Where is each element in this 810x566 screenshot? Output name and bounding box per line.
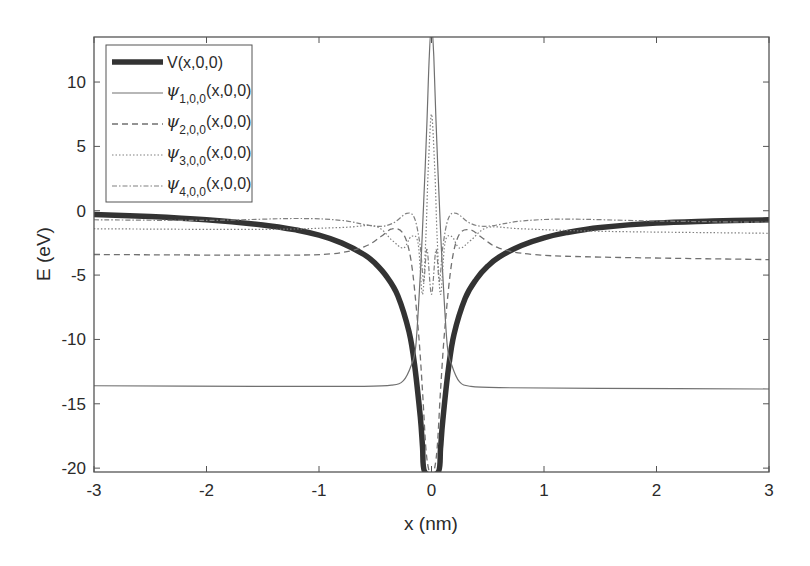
x-tick-label: -1	[311, 481, 326, 500]
y-tick-label: -5	[71, 266, 86, 285]
x-tick-label: 3	[764, 481, 773, 500]
x-tick-label: 2	[652, 481, 661, 500]
x-axis-label: x (nm)	[404, 513, 458, 534]
y-tick-label: -10	[61, 330, 86, 349]
series-line-potential	[94, 215, 769, 475]
legend: V(x,0,0)ψ1,0,0(x,0,0)ψ2,0,0(x,0,0)ψ3,0,0…	[106, 45, 252, 202]
y-tick-label: 0	[77, 202, 86, 221]
x-tick-label: 0	[427, 481, 436, 500]
y-axis-label: E (eV)	[33, 227, 54, 281]
legend-label: V(x,0,0)	[167, 54, 223, 71]
chart: -3-2-10123 1050-5-10-15-20 x (nm) E (eV)…	[0, 0, 810, 566]
series-line-psi-4	[94, 213, 769, 294]
y-tick-label: 5	[77, 137, 86, 156]
y-tick-label: 10	[67, 73, 86, 92]
y-tick-label: -20	[61, 459, 86, 478]
x-tick-label: -3	[86, 481, 101, 500]
series-line-psi-2	[94, 229, 769, 474]
y-tick-label: -15	[61, 395, 86, 414]
x-tick-label: -2	[199, 481, 214, 500]
x-tick-label: 1	[539, 481, 548, 500]
